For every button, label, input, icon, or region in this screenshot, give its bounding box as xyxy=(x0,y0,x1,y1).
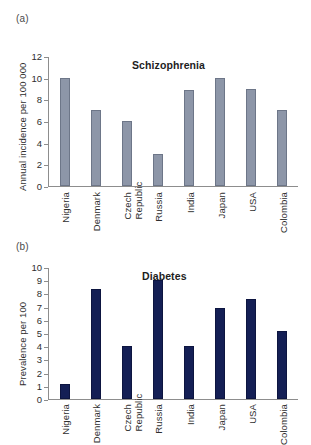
y-tick-b xyxy=(44,374,48,375)
bar xyxy=(153,280,163,399)
x-label-cell: Russia xyxy=(143,402,174,445)
bar-cell xyxy=(205,268,236,399)
bar-cell xyxy=(111,57,142,186)
x-axis-label: USA xyxy=(247,404,258,424)
bar xyxy=(60,384,70,399)
x-label-cell: CzechRepublic xyxy=(112,402,143,445)
y-tick-label-b: 8 xyxy=(37,290,42,300)
bar-cell xyxy=(205,57,236,186)
y-tick-a xyxy=(44,57,48,58)
y-tick-label-a: 12 xyxy=(31,52,42,62)
bar xyxy=(215,78,225,186)
y-tick-label-b: 3 xyxy=(37,356,42,366)
y-tick-b xyxy=(44,321,48,322)
y-tick-label-b: 7 xyxy=(37,303,42,313)
x-axis-line-a xyxy=(48,186,298,187)
y-tick-label-b: 2 xyxy=(37,369,42,379)
y-tick-b xyxy=(44,400,48,401)
bar xyxy=(60,78,70,186)
x-axis-label: Japan xyxy=(215,192,226,218)
y-tick-a xyxy=(44,100,48,101)
bar xyxy=(153,154,163,187)
bar-cell xyxy=(80,57,111,186)
y-tick-b xyxy=(44,360,48,361)
x-axis-label: Japan xyxy=(215,404,226,430)
bar xyxy=(91,110,101,186)
bar-cell xyxy=(49,57,80,186)
bar-cell xyxy=(111,268,142,399)
x-axis-labels-b: NigeriaDenmarkCzechRepublicRussiaIndiaJa… xyxy=(49,402,299,445)
bar-cell xyxy=(267,57,298,186)
bar-series-schizophrenia xyxy=(49,57,298,186)
y-tick-b xyxy=(44,347,48,348)
bar-cell xyxy=(142,268,173,399)
x-axis-label: CzechRepublic xyxy=(122,404,133,431)
bar xyxy=(184,90,194,186)
bar-cell xyxy=(80,268,111,399)
y-tick-label-a: 8 xyxy=(37,96,42,106)
y-tick-label-b: 4 xyxy=(37,342,42,352)
y-tick-label-b: 5 xyxy=(37,329,42,339)
x-axis-label: Colombia xyxy=(278,192,289,233)
bar-cell xyxy=(267,268,298,399)
x-axis-label: Russia xyxy=(153,192,164,222)
y-tick-b xyxy=(44,308,48,309)
y-tick-label-b: 0 xyxy=(37,395,42,405)
y-tick-a xyxy=(44,79,48,80)
x-axis-label: Russia xyxy=(153,404,164,434)
y-tick-a xyxy=(44,187,48,188)
bar-cell xyxy=(142,57,173,186)
x-axis-label: USA xyxy=(247,192,258,212)
bar xyxy=(184,346,194,399)
panel-label-b: (b) xyxy=(16,241,29,252)
y-axis-title-a: Annual incidence per 100 000 xyxy=(17,62,28,191)
x-label-cell: USA xyxy=(237,402,268,445)
panel-label-a: (a) xyxy=(16,13,29,24)
bar-cell xyxy=(49,268,80,399)
y-tick-b xyxy=(44,387,48,388)
y-tick-label-a: 2 xyxy=(37,161,42,171)
panel-schizophrenia: (a) Annual incidence per 100 000 Schizop… xyxy=(0,0,311,228)
plot-area-diabetes: Diabetes 012345678910 xyxy=(48,268,298,400)
x-label-cell: India xyxy=(174,402,205,445)
y-axis-title-b: Prevalence per 100 xyxy=(17,302,28,386)
bar xyxy=(246,299,256,399)
y-tick-label-a: 6 xyxy=(37,117,42,127)
y-tick-a xyxy=(44,165,48,166)
y-tick-a xyxy=(44,122,48,123)
y-tick-label-b: 6 xyxy=(37,316,42,326)
y-tick-b xyxy=(44,334,48,335)
x-axis-label: Nigeria xyxy=(59,404,70,435)
figure: (a) Annual incidence per 100 000 Schizop… xyxy=(0,0,311,445)
y-tick-b xyxy=(44,268,48,269)
bar-cell xyxy=(174,57,205,186)
y-tick-label-a: 4 xyxy=(37,139,42,149)
bar xyxy=(122,346,132,399)
x-axis-label: Nigeria xyxy=(59,192,70,223)
x-axis-label: India xyxy=(184,404,195,425)
bar xyxy=(122,121,132,186)
x-label-cell: Colombia xyxy=(268,402,299,445)
y-tick-label-b: 1 xyxy=(37,382,42,392)
x-label-cell: Denmark xyxy=(80,402,111,445)
x-axis-line-b xyxy=(48,399,298,400)
bar xyxy=(277,110,287,186)
x-axis-label: CzechRepublic xyxy=(122,192,133,219)
y-tick-a xyxy=(44,144,48,145)
bar xyxy=(246,89,256,187)
y-tick-label-b: 10 xyxy=(31,263,42,273)
bar xyxy=(277,331,287,399)
y-tick-label-b: 9 xyxy=(37,276,42,286)
x-axis-label: India xyxy=(184,192,195,213)
y-tick-b xyxy=(44,294,48,295)
x-label-cell: Japan xyxy=(205,402,236,445)
bar xyxy=(215,308,225,399)
x-axis-label: Colombia xyxy=(278,404,289,445)
y-tick-label-a: 0 xyxy=(37,182,42,192)
x-label-cell: Nigeria xyxy=(49,402,80,445)
bar-cell xyxy=(174,268,205,399)
x-axis-label: Denmark xyxy=(90,404,101,443)
plot-area-schizophrenia: Schizophrenia 024681012 xyxy=(48,57,298,187)
y-tick-label-a: 10 xyxy=(31,74,42,84)
bar-cell xyxy=(236,268,267,399)
